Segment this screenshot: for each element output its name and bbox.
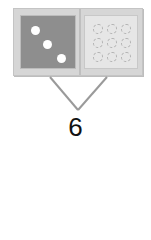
whole-number-label: 6 xyxy=(0,112,151,143)
